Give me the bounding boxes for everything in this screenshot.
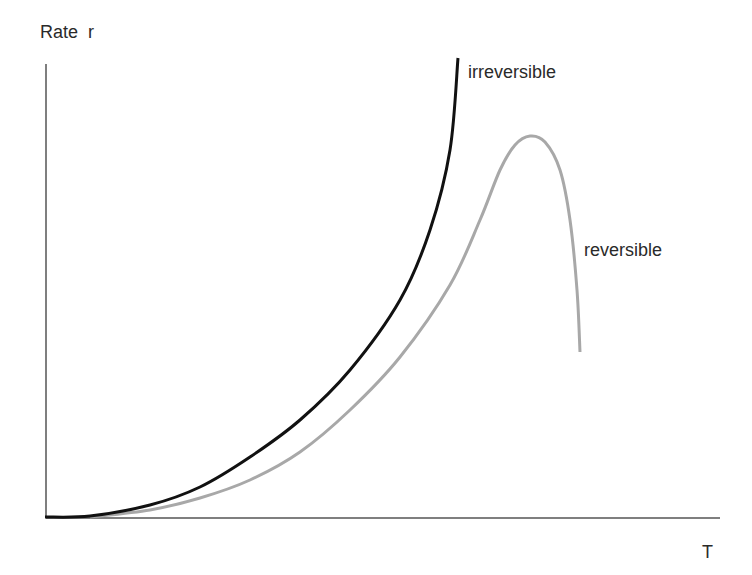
y-axis-label: Rate r [40, 22, 94, 43]
chart-canvas [0, 0, 752, 575]
reversible-curve [90, 136, 580, 517]
irreversible-curve [45, 58, 458, 517]
reversible-label: reversible [584, 240, 662, 261]
irreversible-label: irreversible [468, 62, 556, 83]
x-axis-label: T [702, 542, 713, 563]
